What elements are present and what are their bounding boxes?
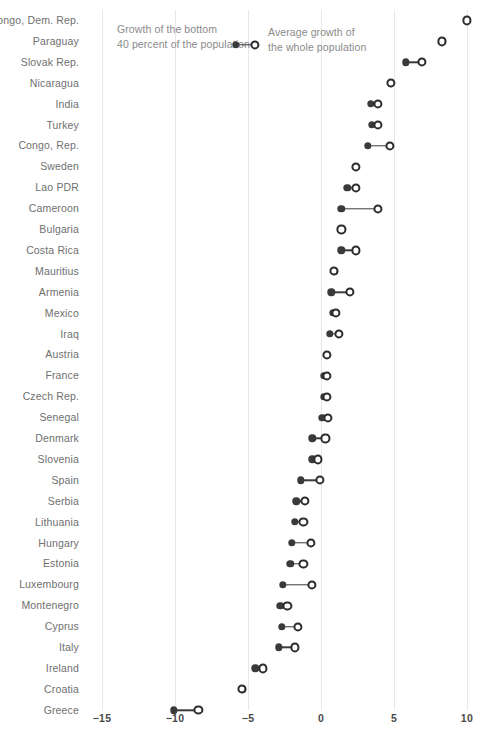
average-marker[interactable] [238, 685, 247, 694]
average-marker[interactable] [351, 183, 360, 192]
chart-row[interactable]: Serbia [98, 491, 468, 512]
average-marker[interactable] [322, 350, 331, 359]
average-marker[interactable] [300, 497, 309, 506]
average-marker[interactable] [258, 664, 267, 673]
country-label: Mauritius [0, 261, 79, 282]
annotation-bottom40-label: Growth of the bottom 40 percent of the p… [117, 22, 250, 52]
average-marker[interactable] [373, 99, 382, 108]
bottom40-marker[interactable] [275, 644, 282, 651]
average-marker[interactable] [321, 434, 330, 443]
chart-row[interactable]: Costa Rica [98, 240, 468, 261]
chart-row[interactable]: Luxembourg [98, 574, 468, 595]
average-marker[interactable] [373, 120, 382, 129]
bottom40-marker[interactable] [338, 247, 345, 254]
bottom40-marker[interactable] [344, 184, 351, 191]
country-label: Paraguay [0, 31, 79, 52]
dumbbell-chart: Congo, Dem. Rep.ParaguaySlovak Rep.Nicar… [0, 0, 485, 747]
average-marker[interactable] [438, 37, 447, 46]
average-marker[interactable] [385, 141, 394, 150]
country-label: Lao PDR [0, 177, 79, 198]
country-label: Slovak Rep. [0, 52, 79, 73]
country-label: Congo, Rep. [0, 135, 79, 156]
chart-row[interactable]: Hungary [98, 533, 468, 554]
chart-row[interactable]: Bulgaria [98, 219, 468, 240]
country-label: Spain [0, 470, 79, 491]
average-marker[interactable] [330, 267, 339, 276]
average-marker[interactable] [331, 308, 340, 317]
chart-row[interactable]: Slovenia [98, 449, 468, 470]
bottom40-marker[interactable] [326, 330, 333, 337]
average-marker[interactable] [417, 58, 426, 67]
average-marker[interactable] [315, 476, 324, 485]
average-marker[interactable] [322, 371, 331, 380]
bottom40-marker[interactable] [364, 142, 371, 149]
average-marker[interactable] [334, 329, 343, 338]
bottom40-marker[interactable] [328, 288, 335, 295]
bottom40-marker[interactable] [278, 623, 285, 630]
average-marker[interactable] [351, 162, 360, 171]
bottom40-marker[interactable] [309, 435, 316, 442]
average-marker[interactable] [283, 601, 292, 610]
bottom40-marker[interactable] [291, 518, 298, 525]
average-marker[interactable] [322, 392, 331, 401]
chart-row[interactable]: Congo, Rep. [98, 135, 468, 156]
country-label: Serbia [0, 491, 79, 512]
chart-row[interactable]: Estonia [98, 553, 468, 574]
chart-row[interactable]: Ireland [98, 658, 468, 679]
bottom40-marker[interactable] [402, 59, 409, 66]
chart-row[interactable]: Armenia [98, 282, 468, 303]
country-label: India [0, 94, 79, 115]
average-marker[interactable] [299, 517, 308, 526]
bottom40-marker[interactable] [338, 205, 345, 212]
average-marker[interactable] [308, 580, 317, 589]
bottom40-marker[interactable] [279, 581, 286, 588]
average-marker[interactable] [299, 559, 308, 568]
chart-row[interactable]: Turkey [98, 115, 468, 136]
chart-row[interactable]: Croatia [98, 679, 468, 700]
chart-row[interactable]: Denmark [98, 428, 468, 449]
x-tick-label: 10 [461, 712, 473, 724]
chart-row[interactable]: Nicaragua [98, 73, 468, 94]
bottom40-marker[interactable] [287, 560, 294, 567]
country-label: Bulgaria [0, 219, 79, 240]
chart-row[interactable]: Lithuania [98, 512, 468, 533]
average-marker[interactable] [351, 246, 360, 255]
chart-row[interactable]: Spain [98, 470, 468, 491]
chart-row[interactable]: Austria [98, 344, 468, 365]
average-marker[interactable] [337, 225, 346, 234]
country-label: Austria [0, 344, 79, 365]
average-marker[interactable] [306, 538, 315, 547]
average-marker[interactable] [324, 413, 333, 422]
average-marker[interactable] [462, 16, 471, 25]
chart-row[interactable]: Sweden [98, 156, 468, 177]
chart-row[interactable]: Italy [98, 637, 468, 658]
country-label: Turkey [0, 115, 79, 136]
chart-row[interactable]: Mexico [98, 303, 468, 324]
legend-sample [233, 40, 261, 50]
chart-row[interactable]: Senegal [98, 407, 468, 428]
legend-hollow-marker-icon [250, 40, 259, 49]
average-marker[interactable] [290, 643, 299, 652]
chart-row[interactable]: Cameroon [98, 198, 468, 219]
chart-row[interactable]: India [98, 94, 468, 115]
average-marker[interactable] [346, 288, 355, 297]
chart-row[interactable]: France [98, 365, 468, 386]
chart-row[interactable]: Mauritius [98, 261, 468, 282]
bottom40-marker[interactable] [288, 539, 295, 546]
country-label: France [0, 365, 79, 386]
average-marker[interactable] [386, 79, 395, 88]
chart-row[interactable]: Czech Rep. [98, 386, 468, 407]
chart-row[interactable]: Cyprus [98, 616, 468, 637]
chart-row[interactable]: Montenegro [98, 595, 468, 616]
bottom40-marker[interactable] [297, 477, 304, 484]
country-label: Luxembourg [0, 574, 79, 595]
chart-row[interactable]: Iraq [98, 324, 468, 345]
country-label: Montenegro [0, 595, 79, 616]
country-label: Italy [0, 637, 79, 658]
x-axis: −15−10−50510 [0, 712, 485, 742]
chart-row[interactable]: Lao PDR [98, 177, 468, 198]
average-marker[interactable] [313, 455, 322, 464]
bottom40-marker[interactable] [292, 497, 299, 504]
average-marker[interactable] [373, 204, 382, 213]
average-marker[interactable] [293, 622, 302, 631]
